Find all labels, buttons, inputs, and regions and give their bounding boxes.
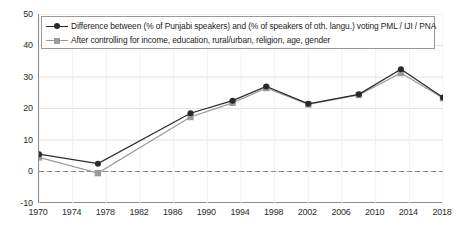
- x-axis-tick-label: 2018: [422, 207, 462, 217]
- chart-container: 50 40 30 20 10 0 -10 1970 1974 1978 1982…: [0, 0, 473, 239]
- y-axis-tick-label: 20: [0, 103, 33, 113]
- y-axis-tick-label: 50: [0, 9, 33, 19]
- legend: Difference between (% of Punjabi speaker…: [41, 16, 435, 49]
- y-axis-tick-label: 40: [0, 40, 33, 50]
- legend-item-adjusted[interactable]: After controlling for income, education,…: [46, 34, 430, 47]
- legend-label-adjusted: After controlling for income, education,…: [71, 35, 330, 46]
- y-axis-tick-label: 10: [0, 135, 33, 145]
- legend-marker-circle-icon: [46, 21, 68, 32]
- y-axis-tick-label: 30: [0, 72, 33, 82]
- legend-item-raw[interactable]: Difference between (% of Punjabi speaker…: [46, 20, 430, 33]
- y-axis-tick-label: 0: [0, 166, 33, 176]
- legend-label-raw: Difference between (% of Punjabi speaker…: [71, 21, 436, 32]
- legend-marker-square-icon: [46, 35, 68, 46]
